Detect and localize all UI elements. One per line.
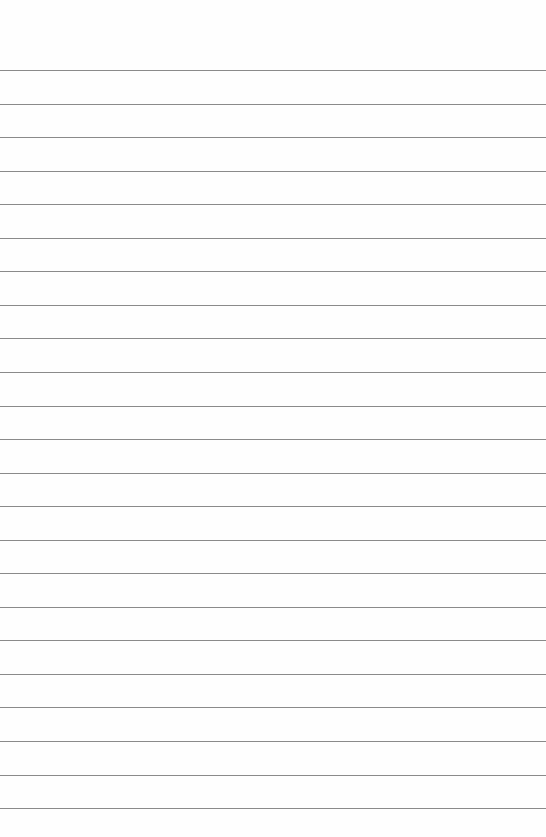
ruled-line xyxy=(0,238,546,239)
lined-paper-page xyxy=(0,0,546,837)
ruled-line xyxy=(0,406,546,407)
ruled-line xyxy=(0,439,546,440)
ruled-line xyxy=(0,640,546,641)
ruled-line xyxy=(0,607,546,608)
ruled-line xyxy=(0,775,546,776)
ruled-line xyxy=(0,305,546,306)
ruled-line xyxy=(0,741,546,742)
ruled-line xyxy=(0,808,546,809)
ruled-line xyxy=(0,372,546,373)
ruled-line xyxy=(0,137,546,138)
ruled-line xyxy=(0,171,546,172)
ruled-line xyxy=(0,204,546,205)
ruled-line xyxy=(0,271,546,272)
ruled-line xyxy=(0,104,546,105)
ruled-line xyxy=(0,473,546,474)
ruled-line xyxy=(0,540,546,541)
ruled-line xyxy=(0,338,546,339)
ruled-line xyxy=(0,506,546,507)
ruled-line xyxy=(0,573,546,574)
ruled-line xyxy=(0,674,546,675)
ruled-line xyxy=(0,70,546,71)
ruled-line xyxy=(0,707,546,708)
